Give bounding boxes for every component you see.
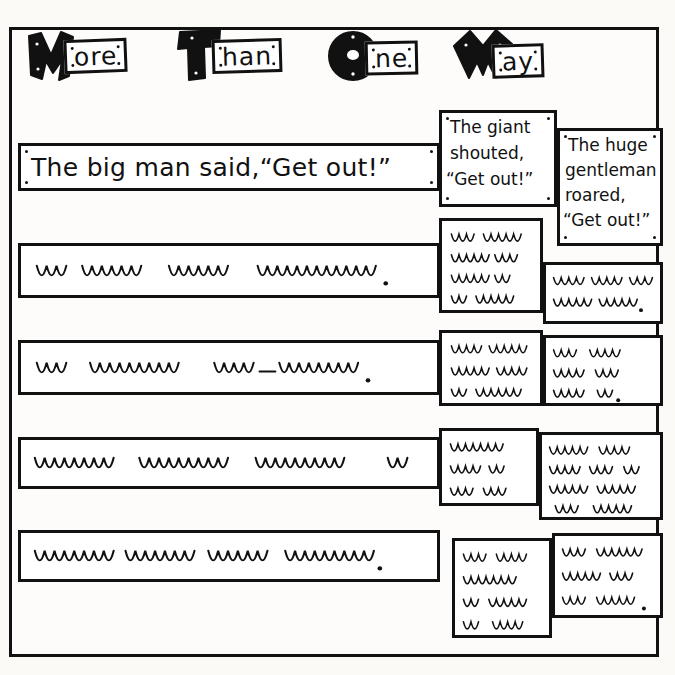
title-word-more-text: ore <box>73 41 117 72</box>
title-word-than-rest: han <box>212 38 283 74</box>
row-1-right-box[interactable]: The huge gentleman roared, “Get out!” <box>557 128 663 246</box>
page-title: ore han <box>26 26 586 88</box>
title-word-one-rest: ne <box>365 40 419 75</box>
row-5-right-box[interactable] <box>552 533 663 618</box>
row-2-middle-box[interactable] <box>439 218 543 313</box>
row-5-main-box[interactable] <box>18 530 440 582</box>
row-2-right-box[interactable] <box>543 262 663 324</box>
row-3-middle-box[interactable] <box>439 330 543 406</box>
row-1-right-line-4: “Get out!” <box>563 210 654 230</box>
title-word-than-text: han <box>222 41 273 71</box>
row-4-middle-squiggle <box>442 431 536 503</box>
row-4-main-squiggle <box>21 440 437 486</box>
row-1-main-text: The big man said,“Get out!” <box>31 153 391 182</box>
row-4-main-box[interactable] <box>18 437 440 489</box>
row-5-right-squiggle <box>555 536 660 615</box>
row-1-right-line-3: roared, <box>565 185 654 205</box>
row-4-right-box[interactable] <box>539 432 663 520</box>
row-1-middle-line-3: “Get out!” <box>446 169 548 189</box>
worksheet-page: ore han <box>0 0 675 675</box>
title-word-one-text: ne <box>375 43 409 73</box>
row-3-main-squiggle <box>21 343 437 392</box>
row-3-middle-squiggle <box>442 333 540 403</box>
title-word-more: ore <box>26 30 127 80</box>
row-1-middle-box[interactable]: The giant shouted, “Get out!” <box>439 110 557 207</box>
row-2-main-squiggle <box>21 246 437 295</box>
row-4-middle-box[interactable] <box>439 428 539 506</box>
title-word-than: han <box>172 28 282 78</box>
row-3-right-box[interactable] <box>543 335 663 406</box>
title-word-way-rest: ay <box>491 43 544 79</box>
title-word-way: ay <box>450 28 544 78</box>
title-word-more-rest: ore <box>63 38 128 74</box>
row-5-middle-squiggle <box>455 541 549 635</box>
row-1-middle-line-2: shouted, <box>450 143 548 163</box>
row-3-main-box[interactable] <box>18 340 440 395</box>
row-1-main-box[interactable]: The big man said,“Get out!” <box>18 143 440 191</box>
row-2-middle-squiggle <box>442 221 540 310</box>
row-1-middle-line-1: The giant <box>450 117 548 137</box>
row-2-main-box[interactable] <box>18 243 440 298</box>
row-5-main-squiggle <box>21 533 437 579</box>
title-word-one: ne <box>326 28 418 78</box>
row-4-right-squiggle <box>542 435 660 517</box>
row-1-right-line-1: The huge <box>568 135 654 155</box>
row-1-right-line-2: gentleman <box>565 160 654 180</box>
row-3-right-squiggle <box>546 338 660 403</box>
title-word-way-text: ay <box>502 46 535 76</box>
row-2-right-squiggle <box>546 265 660 321</box>
row-5-middle-box[interactable] <box>452 538 552 638</box>
